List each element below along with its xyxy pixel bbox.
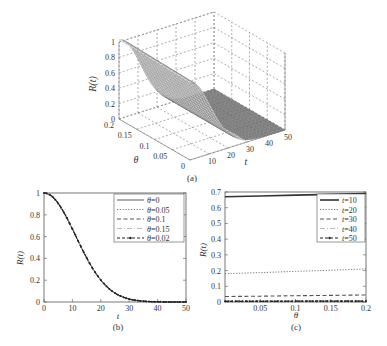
series-marker xyxy=(88,262,90,264)
z-tick-label: 1 xyxy=(111,38,115,47)
series-marker xyxy=(361,300,363,302)
series-marker xyxy=(91,267,93,269)
series-marker xyxy=(287,300,289,302)
z-tick-label: 0.6 xyxy=(105,69,115,78)
series-marker xyxy=(43,192,45,194)
y-tick-label: 1 xyxy=(36,189,40,198)
legend-entry: θ=0.05 xyxy=(147,206,169,215)
series-marker xyxy=(323,300,325,302)
y-tick-label: 0.4 xyxy=(211,235,221,244)
series-marker xyxy=(60,207,62,209)
series-marker xyxy=(319,300,321,302)
t-tick-label: 20 xyxy=(227,151,235,160)
series-marker xyxy=(351,300,353,302)
legend-entry: θ=0 xyxy=(147,196,159,205)
series-marker xyxy=(100,279,102,281)
legend-entry: t=20 xyxy=(342,206,357,215)
series-marker xyxy=(280,300,282,302)
legend-entry: t=40 xyxy=(342,225,357,234)
series-line xyxy=(225,269,366,274)
series-marker xyxy=(123,296,125,298)
legend-entry: θ=0.1 xyxy=(147,215,165,224)
series-marker xyxy=(140,300,142,302)
x-axis-label: θ xyxy=(294,310,299,320)
series-marker xyxy=(309,300,311,302)
series-marker xyxy=(52,196,54,198)
x-axis-label: t xyxy=(245,156,248,167)
series-marker xyxy=(174,301,176,303)
t-tick-label: 50 xyxy=(284,133,292,142)
y-tick-label: 0 xyxy=(36,298,40,307)
theta-tick-label: 0.2 xyxy=(104,121,114,130)
series-marker xyxy=(228,300,230,302)
series-marker xyxy=(168,301,170,303)
t-tick-label: 40 xyxy=(265,139,273,148)
line-plot-panel-c: 00.10.20.30.40.50.60.70.050.10.150.2 t=1… xyxy=(198,188,371,332)
z-tick-label: 0.4 xyxy=(105,84,115,93)
y-axis-label: R(t) xyxy=(198,243,208,258)
series-marker xyxy=(182,301,184,303)
series-marker xyxy=(154,301,156,303)
series-marker xyxy=(312,300,314,302)
caption-c: (c) xyxy=(291,322,301,332)
x-tick-label: 40 xyxy=(154,304,162,313)
figure: 00.20.40.60.8100.050.10.150.21020304050 … xyxy=(0,0,387,346)
series-marker xyxy=(242,300,244,302)
series-marker xyxy=(326,300,328,302)
series-marker xyxy=(316,300,318,302)
series-marker xyxy=(273,300,275,302)
y-tick-label: 0.4 xyxy=(30,254,40,263)
z-axis-label: R(t) xyxy=(87,76,99,93)
series-marker xyxy=(252,300,254,302)
series-marker xyxy=(238,300,240,302)
y-tick-label: 0.6 xyxy=(211,204,221,213)
series-marker xyxy=(179,301,181,303)
series-marker xyxy=(277,300,279,302)
y-tick-label: 0.8 xyxy=(30,211,40,220)
series-marker xyxy=(259,300,261,302)
y-tick-label: 0.6 xyxy=(30,233,40,242)
series-line xyxy=(225,295,366,297)
z-tick-label: 0.8 xyxy=(105,53,115,62)
series-marker xyxy=(80,246,82,248)
series-marker xyxy=(263,300,265,302)
series-marker xyxy=(159,301,161,303)
series-marker xyxy=(171,301,173,303)
x-tick-label: 0.05 xyxy=(253,304,267,313)
series-marker xyxy=(151,301,153,303)
y-tick-label: 0.7 xyxy=(211,188,221,197)
series-marker xyxy=(120,295,122,297)
series-marker xyxy=(71,228,73,230)
series-marker xyxy=(185,301,187,303)
x-axis-label: t xyxy=(117,311,120,321)
series-marker xyxy=(224,300,226,302)
legend-entry: t=30 xyxy=(342,215,357,224)
series-marker xyxy=(134,299,136,301)
series-marker xyxy=(142,300,144,302)
legend-entry: t=10 xyxy=(342,196,357,205)
x-tick-label: 30 xyxy=(125,304,133,313)
series-marker xyxy=(137,300,139,302)
y-axis-label: R(t) xyxy=(15,251,25,266)
series-marker xyxy=(74,234,76,236)
series-marker xyxy=(235,300,237,302)
y-tick-label: 0.2 xyxy=(30,276,40,285)
series-marker xyxy=(54,199,56,201)
series-marker xyxy=(266,300,268,302)
series-marker xyxy=(86,257,88,259)
3d-box-grid xyxy=(119,12,285,160)
theta-tick-label: 0.05 xyxy=(153,152,167,161)
series-marker xyxy=(111,290,113,292)
series-marker xyxy=(148,301,150,303)
series-marker xyxy=(97,275,99,277)
legend: t=10t=20t=30t=40t=50 xyxy=(317,194,365,243)
z-tick-label: 0.2 xyxy=(105,100,115,109)
series-marker xyxy=(337,300,339,302)
series-marker xyxy=(256,300,258,302)
line-plot-panel-b: 00.20.40.60.8101020304050 θ=0θ=0.05θ=0.1… xyxy=(15,189,190,332)
y-tick-label: 0.1 xyxy=(211,282,221,291)
t-tick-label: 30 xyxy=(246,145,254,154)
legend-entry: θ=0.15 xyxy=(147,225,169,234)
theta-tick-label: 0.1 xyxy=(140,142,150,151)
series-marker xyxy=(330,300,332,302)
